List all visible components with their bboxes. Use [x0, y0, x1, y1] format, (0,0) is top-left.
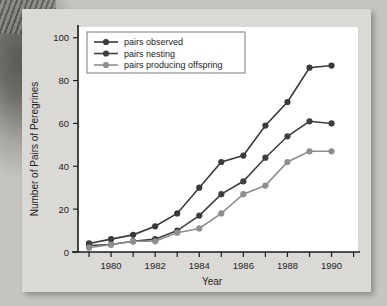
- y-tick-label: 80: [58, 75, 69, 86]
- data-point: [174, 210, 180, 216]
- y-tick-label: 40: [58, 161, 69, 172]
- data-point: [306, 65, 312, 71]
- data-point: [240, 152, 246, 158]
- data-point: [108, 236, 114, 242]
- x-tick-label: 1988: [277, 260, 298, 271]
- data-point: [218, 159, 224, 165]
- data-point: [306, 118, 312, 124]
- data-point: [174, 230, 180, 236]
- data-point: [284, 159, 290, 165]
- chart-plot-area: 020406080100 198019821984198619881990 Nu…: [22, 9, 371, 292]
- y-axis-title: Number of Pairs of Peregrines: [29, 82, 40, 217]
- legend-label: pairs observed: [124, 37, 183, 47]
- data-point: [218, 210, 224, 216]
- data-point: [240, 178, 246, 184]
- y-tick-label: 20: [58, 204, 69, 215]
- data-point: [196, 225, 202, 231]
- data-point: [284, 99, 290, 105]
- x-tick-label: 1980: [101, 260, 122, 271]
- data-point: [262, 155, 268, 161]
- x-tick-label: 1984: [189, 260, 210, 271]
- data-point: [130, 232, 136, 238]
- x-axis-title: Year: [202, 276, 223, 287]
- data-point: [306, 148, 312, 154]
- legend-swatch-marker: [103, 50, 109, 56]
- chart-panel: 020406080100 198019821984198619881990 Nu…: [22, 9, 371, 292]
- data-point: [152, 238, 158, 244]
- data-point: [284, 133, 290, 139]
- y-tick-label: 60: [58, 118, 69, 129]
- data-point: [196, 185, 202, 191]
- x-tick-label: 1982: [145, 260, 166, 271]
- x-tick-label: 1990: [321, 260, 342, 271]
- data-point: [262, 122, 268, 128]
- y-tick-label: 100: [53, 32, 69, 43]
- legend-label: pairs producing offspring: [124, 60, 222, 70]
- data-point: [218, 191, 224, 197]
- legend-label: pairs nesting: [124, 49, 175, 59]
- data-point: [196, 212, 202, 218]
- y-axis-ticks: 020406080100: [53, 32, 78, 257]
- data-point: [240, 191, 246, 197]
- legend-swatch-marker: [103, 39, 109, 45]
- x-tick-label: 1986: [233, 260, 254, 271]
- data-point: [328, 120, 334, 126]
- y-tick-label: 0: [64, 247, 69, 258]
- legend-swatch-marker: [103, 62, 109, 68]
- data-point: [130, 238, 136, 244]
- data-point: [86, 245, 92, 251]
- peregrine-population-line-chart: 020406080100 198019821984198619881990 Nu…: [22, 9, 371, 292]
- chart-legend: pairs observedpairs nestingpairs produci…: [87, 32, 245, 73]
- data-point: [152, 223, 158, 229]
- data-point: [262, 182, 268, 188]
- data-point: [328, 62, 334, 68]
- data-point: [328, 148, 334, 154]
- data-point: [108, 241, 114, 247]
- x-axis-ticks: 198019821984198619881990: [89, 252, 354, 271]
